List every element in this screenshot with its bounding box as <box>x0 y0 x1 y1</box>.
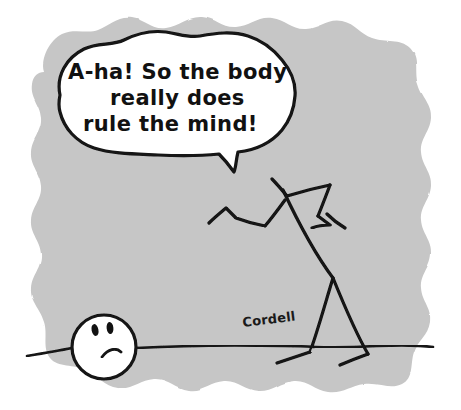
detached-head <box>72 315 136 379</box>
bubble-line-2: really does <box>110 86 245 110</box>
comic-artwork: A-ha! So the body really does rule the m… <box>0 0 461 410</box>
comic-panel: A-ha! So the body really does rule the m… <box>0 0 461 410</box>
bubble-line-3: rule the mind! <box>83 112 258 136</box>
head-outline <box>72 315 136 379</box>
bubble-line-1: A-ha! So the body <box>68 60 287 84</box>
